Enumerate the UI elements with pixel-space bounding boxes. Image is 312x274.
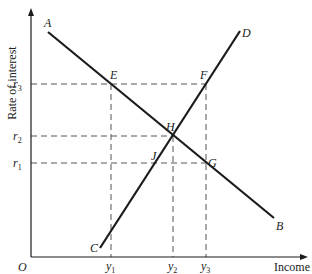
label-B: B [276,219,284,233]
tick-y2: y2 [167,259,177,274]
point-G: G [208,156,217,170]
point-H: H [165,120,176,134]
ism-diagram: r3r2r1y1y2y3Rate of interestIncomeOABCDE… [0,0,312,274]
point-E: E [109,68,118,82]
tick-y3: y3 [200,259,210,274]
tick-r1: r1 [13,156,22,172]
curve-AB [48,32,274,218]
origin-label: O [18,260,27,274]
x-axis-title: Income [274,260,310,274]
diagram-canvas: r3r2r1y1y2y3Rate of interestIncomeOABCDE… [0,0,312,274]
y-axis-arrow-icon [28,8,34,16]
point-F: F [199,68,208,82]
label-C: C [90,241,99,255]
point-J: J [151,149,157,163]
y-axis-title: Rate of interest [5,46,19,120]
tick-r2: r2 [13,129,22,145]
label-A: A [43,16,52,30]
label-D: D [241,26,251,40]
tick-y1: y1 [105,259,115,274]
curve-CD [100,31,240,248]
